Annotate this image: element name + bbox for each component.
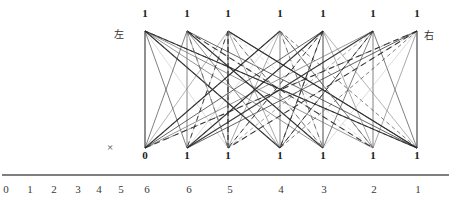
top-node-3: 1 (277, 7, 283, 19)
axis-tick-3: 3 (75, 183, 81, 195)
top-node-5: 1 (370, 7, 376, 19)
axis-tick-11: 2 (371, 183, 377, 195)
bottom-node-4: 1 (320, 149, 326, 161)
axis-tick-10: 3 (321, 183, 327, 195)
right-side-label: 右 (424, 27, 434, 42)
bottom-node-3: 1 (277, 149, 283, 161)
top-node-2: 1 (225, 7, 231, 19)
bottom-node-5: 1 (370, 149, 376, 161)
top-node-6: 1 (414, 7, 420, 19)
axis-tick-4: 4 (96, 183, 102, 195)
figure-canvas: 左 右 × 1111111 0111111 0123456654321 (0, 0, 451, 209)
bottom-node-6: 1 (414, 149, 420, 161)
axis-tick-6: 6 (144, 183, 150, 195)
top-node-4: 1 (320, 7, 326, 19)
axis-tick-12: 1 (415, 183, 421, 195)
top-node-1: 1 (184, 7, 190, 19)
bottom-node-1: 1 (184, 149, 190, 161)
axis-tick-8: 5 (227, 183, 233, 195)
graph-edges (0, 0, 451, 209)
left-side-label: 左 (114, 26, 124, 41)
top-node-0: 1 (142, 7, 148, 19)
axis-tick-7: 6 (186, 183, 192, 195)
bottom-node-0: 0 (142, 149, 148, 161)
axis-tick-9: 4 (278, 183, 284, 195)
axis-tick-0: 0 (3, 183, 9, 195)
axis-tick-1: 1 (27, 183, 33, 195)
axis-tick-2: 2 (51, 183, 57, 195)
cross-icon: × (107, 141, 113, 153)
bottom-node-2: 1 (225, 149, 231, 161)
axis-tick-5: 5 (118, 183, 124, 195)
